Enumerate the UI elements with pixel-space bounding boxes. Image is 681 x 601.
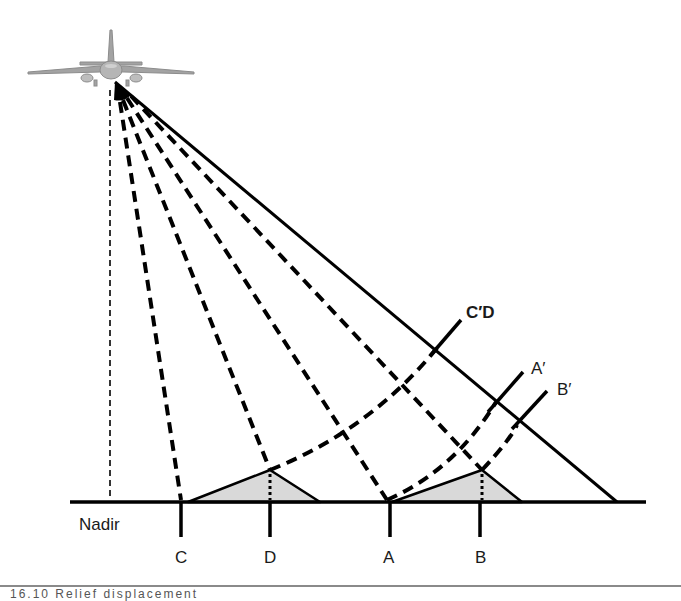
image-tick-a: [488, 372, 523, 412]
label-cd-prime: C′D: [466, 303, 495, 322]
ray-c: [120, 102, 181, 500]
swath-edge-ray: [115, 82, 617, 502]
label-a-prime: A′: [531, 359, 546, 378]
relief-feature-cd: [188, 470, 320, 502]
label-a: A: [383, 548, 395, 567]
label-c: C: [175, 548, 187, 567]
ray-b: [131, 96, 482, 470]
figure-caption-text: 16.10 Relief displacement: [10, 587, 198, 601]
label-b: B: [475, 548, 486, 567]
nadir-label: Nadir: [79, 515, 120, 534]
aircraft-icon: [28, 30, 194, 86]
image-tick-b: [512, 391, 547, 429]
figure-caption: 16.10 Relief displacement: [0, 585, 681, 601]
arc-b: [482, 425, 517, 470]
image-tick-cd: [430, 320, 461, 356]
label-d: D: [264, 548, 276, 567]
label-b-prime: B′: [557, 380, 572, 399]
